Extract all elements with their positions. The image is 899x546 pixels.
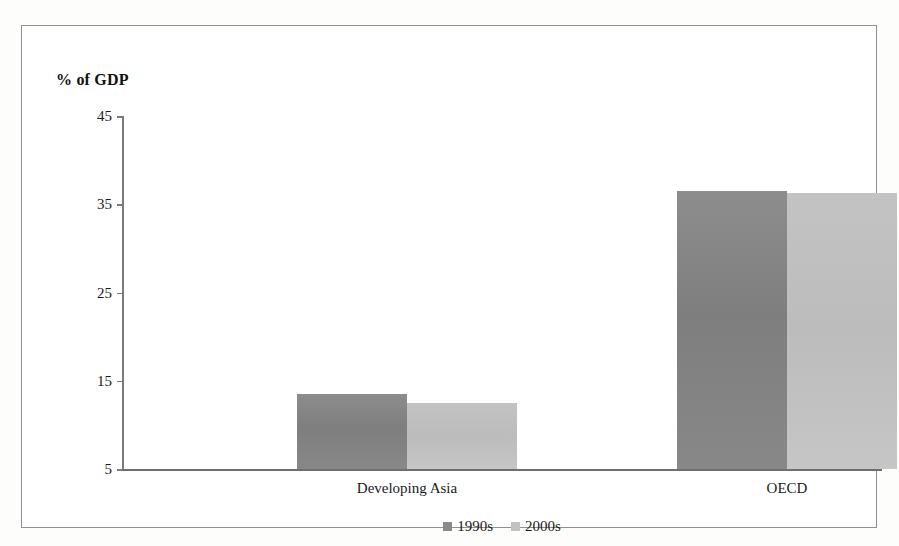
y-tick-mark — [117, 204, 123, 206]
y-tick-label: 35 — [97, 196, 112, 213]
chart-legend: 1990s2000s — [122, 519, 882, 534]
bar-developing-asia-1990s — [297, 394, 407, 469]
category-label: Developing Asia — [357, 480, 457, 497]
y-tick-label: 25 — [97, 284, 112, 301]
page-background: % of GDP 453525155 Developing AsiaOECD 1… — [0, 0, 899, 546]
bar-developing-asia-2000s — [407, 403, 517, 469]
y-tick-mark — [117, 116, 123, 118]
bar-oecd-2000s — [787, 193, 897, 469]
plot-area: 453525155 Developing AsiaOECD 1990s2000s — [122, 116, 882, 469]
bar-oecd-1990s — [677, 191, 787, 469]
figure-frame: % of GDP 453525155 Developing AsiaOECD 1… — [21, 25, 877, 528]
y-tick-mark — [117, 293, 123, 295]
y-axis-unit-title: % of GDP — [56, 71, 129, 89]
legend-swatch-icon — [443, 522, 452, 531]
y-tick-label: 45 — [97, 108, 112, 125]
y-tick-mark — [117, 469, 123, 471]
legend-swatch-icon — [511, 522, 520, 531]
y-tick-mark — [117, 381, 123, 383]
category-label: OECD — [767, 480, 808, 497]
y-tick-label: 15 — [97, 372, 112, 389]
legend-item-1990s: 1990s — [443, 519, 493, 534]
x-axis-line — [122, 469, 882, 471]
y-tick-label: 5 — [105, 461, 113, 478]
legend-label: 1990s — [457, 519, 493, 534]
legend-item-2000s: 2000s — [511, 519, 561, 534]
legend-label: 2000s — [525, 519, 561, 534]
